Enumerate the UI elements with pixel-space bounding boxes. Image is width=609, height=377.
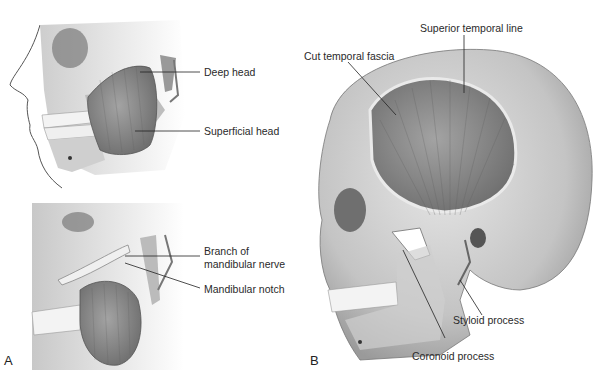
label-deep-head: Deep head xyxy=(204,66,255,78)
label-cut-temporal-fascia: Cut temporal fascia xyxy=(304,50,394,62)
panel-a-bottom-illustration xyxy=(32,203,184,370)
panel-a-top-illustration xyxy=(10,20,185,188)
label-styloid-process: Styloid process xyxy=(453,314,524,326)
label-coronoid-process: Coronoid process xyxy=(412,350,494,362)
label-superficial-head: Superficial head xyxy=(204,125,279,137)
label-branch-line1: Branch of xyxy=(204,245,249,257)
label-mandibular-notch: Mandibular notch xyxy=(204,283,285,295)
label-superior-temporal-line: Superior temporal line xyxy=(420,22,523,34)
panel-letter-a: A xyxy=(4,353,13,368)
label-branch-line2: mandibular nerve xyxy=(204,258,285,270)
panel-letter-b: B xyxy=(310,353,319,368)
